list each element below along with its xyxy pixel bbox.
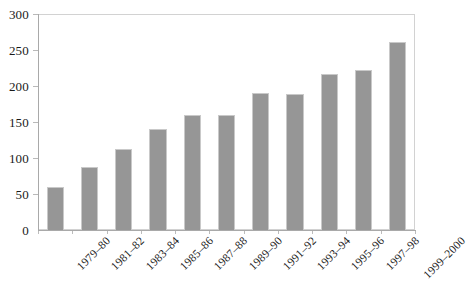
y-axis-tick-label: 250 xyxy=(9,44,29,57)
bar xyxy=(81,167,98,230)
x-axis-tick-label: 1989–90 xyxy=(247,235,285,273)
bar xyxy=(149,129,166,230)
x-axis-tick-label: 1983–84 xyxy=(144,235,182,273)
x-axis-tick-label: 1979–80 xyxy=(75,235,113,273)
bar xyxy=(184,115,201,230)
x-axis-tick-label: 1985–86 xyxy=(178,235,216,273)
x-axis-tick-label: 1997–98 xyxy=(384,235,422,273)
x-axis-tick-label: 1991–92 xyxy=(281,235,319,273)
y-axis-tick-label: 200 xyxy=(9,80,29,93)
x-axis-tick-mark xyxy=(415,231,416,234)
bar xyxy=(252,93,269,230)
y-axis-tick-label: 50 xyxy=(16,188,29,201)
y-axis-tick-label: 150 xyxy=(9,116,29,129)
y-axis-tick-label: 100 xyxy=(9,152,29,165)
bar xyxy=(218,115,235,230)
y-axis-tick-label: 300 xyxy=(9,8,29,21)
bar xyxy=(321,74,338,230)
x-axis-tick-label: 1995–96 xyxy=(350,235,388,273)
bar xyxy=(286,94,303,230)
bar xyxy=(115,149,132,230)
x-axis-tick-label: 1999–2000 xyxy=(422,235,468,281)
x-axis-tick-label: 1993–94 xyxy=(315,235,353,273)
bar xyxy=(47,187,64,230)
y-axis: 050100150200250300 xyxy=(0,0,34,285)
x-axis: 1979–801981–821983–841985–861987–881989–… xyxy=(38,231,415,285)
bars-container xyxy=(38,14,415,230)
x-axis-tick-label: 1987–88 xyxy=(212,235,250,273)
y-axis-tick-label: 0 xyxy=(22,224,29,237)
bar xyxy=(355,70,372,230)
x-axis-tick-label: 1981–82 xyxy=(110,235,148,273)
bar xyxy=(389,42,406,230)
